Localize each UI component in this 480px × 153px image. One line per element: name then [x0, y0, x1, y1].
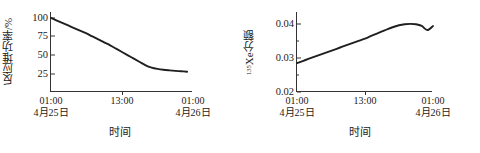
x-tick-label-mid: 13:00 — [111, 95, 134, 107]
x-tick-label-start: 01:00 4月25日 — [280, 95, 315, 118]
y-axis-title-superscript: 135 — [245, 66, 252, 76]
y-tick-label: 75 — [38, 31, 49, 42]
y-axis-title-xenon-fraction: 135Xe分额 — [244, 14, 255, 92]
x-tick-time: 13:00 — [354, 95, 377, 106]
data-curve-reactor-power — [51, 12, 193, 92]
y-tick-label: 0.04 — [276, 19, 294, 30]
x-tick-time: 01:00 — [182, 95, 205, 106]
chart-panel-xenon-fraction: 135Xe分额 0.04 0.03 0.02 01:00 4月25日 13:00 — [240, 0, 480, 153]
x-axis-title-reactor-power: 时间 — [0, 127, 240, 138]
x-tick-time: 01:00 — [422, 95, 445, 106]
x-tick-label-end: 01:00 4月26日 — [416, 95, 451, 118]
y-tick-label: 0.03 — [276, 53, 294, 64]
x-axis-title-xenon-fraction: 时间 — [240, 127, 480, 138]
y-tick-label: 25 — [38, 68, 49, 79]
figure-row: 反应堆功率/% 100 75 50 25 01:00 4月25日 13:00 0… — [0, 0, 480, 153]
x-tick-time: 01:00 — [286, 95, 309, 106]
y-axis-title-reactor-power: 反应堆功率/% — [3, 8, 14, 94]
y-axis-title-text: 反应堆功率/% — [2, 17, 14, 84]
x-tick-date: 4月25日 — [280, 107, 315, 119]
data-curve-xenon-fraction — [297, 12, 433, 92]
y-axis-title-text: Xe分额 — [243, 31, 255, 66]
chart-panel-reactor-power: 反应堆功率/% 100 75 50 25 01:00 4月25日 13:00 0… — [0, 0, 240, 153]
y-tick-label: 50 — [38, 50, 49, 61]
x-tick-label-mid: 13:00 — [354, 95, 377, 107]
x-tick-label-end: 01:00 4月26日 — [176, 95, 211, 118]
plot-area-reactor-power: 100 75 50 25 01:00 4月25日 13:00 01:00 4月2… — [50, 12, 192, 92]
x-tick-time: 13:00 — [111, 95, 134, 106]
plot-area-xenon-fraction: 0.04 0.03 0.02 01:00 4月25日 13:00 01:00 4… — [296, 12, 432, 92]
x-tick-label-start: 01:00 4月25日 — [34, 95, 69, 118]
x-tick-time: 01:00 — [40, 95, 63, 106]
x-tick-date: 4月26日 — [416, 107, 451, 119]
y-tick-label: 100 — [32, 13, 48, 24]
x-tick-date: 4月25日 — [34, 107, 69, 119]
x-tick-date: 4月26日 — [176, 107, 211, 119]
